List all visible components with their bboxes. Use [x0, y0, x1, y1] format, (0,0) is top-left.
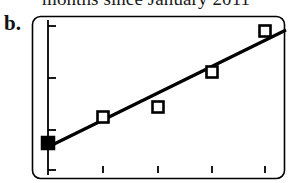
plot-frame — [33, 17, 285, 179]
data-marker-2 — [153, 102, 164, 113]
regression-line — [46, 30, 286, 148]
data-marker-3 — [207, 67, 218, 78]
data-marker-4 — [260, 26, 271, 37]
scatter-plot — [0, 0, 291, 183]
data-marker-1 — [98, 112, 109, 123]
trend-line — [46, 30, 286, 148]
plot-axes — [48, 20, 265, 175]
figure-panel-b: months since January 2011 b. — [0, 0, 291, 183]
data-marker-0 — [42, 137, 55, 150]
plot-border — [33, 17, 285, 179]
data-markers — [42, 26, 271, 150]
